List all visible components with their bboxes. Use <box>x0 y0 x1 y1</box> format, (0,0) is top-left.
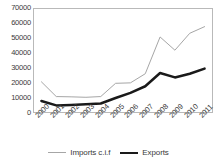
line-chart: 010000200003000040000500006000070000 200… <box>0 0 217 161</box>
legend-swatch-imports-icon <box>48 152 66 153</box>
plot-svg <box>34 9 212 112</box>
y-axis: 010000200003000040000500006000070000 <box>0 0 31 161</box>
y-axis-tick-label: 60000 <box>0 19 31 27</box>
series-line-imports <box>41 27 204 98</box>
y-axis-tick-label: 70000 <box>0 4 31 12</box>
legend-item-exports[interactable]: Exports <box>120 148 168 157</box>
legend-label: Exports <box>142 148 168 157</box>
y-axis-tick-label: 10000 <box>0 94 31 102</box>
y-axis-tick-label: 20000 <box>0 79 31 87</box>
series-line-exports <box>41 69 204 106</box>
x-axis: 2000200120022003200420052006200720082009… <box>33 114 213 144</box>
y-axis-tick-label: 40000 <box>0 49 31 57</box>
y-axis-tick-label: 30000 <box>0 64 31 72</box>
y-axis-tick-label: 50000 <box>0 34 31 42</box>
legend-swatch-exports-icon <box>120 152 138 154</box>
plot-area <box>33 8 213 113</box>
legend-item-imports[interactable]: Imports c.i.f <box>48 148 110 157</box>
chart-legend: Imports c.i.fExports <box>0 144 217 161</box>
legend-label: Imports c.i.f <box>70 148 110 157</box>
y-axis-tick-label: 0 <box>0 109 31 117</box>
